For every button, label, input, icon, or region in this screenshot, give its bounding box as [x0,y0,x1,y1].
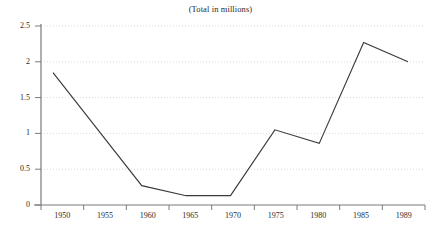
x-axis-ticks-group [41,205,425,210]
data-series-line [53,42,408,195]
y-axis-tick-label: 2 [4,57,30,66]
x-axis-tick-label: 1985 [341,211,381,220]
y-axis-tick-label: 2.5 [4,21,30,30]
x-axis-tick-label: 1965 [170,211,210,220]
y-axis-ticks-group [35,26,41,205]
chart-plot-area [0,0,441,234]
x-axis-tick-label: 1955 [85,211,125,220]
x-axis-tick-label: 1960 [128,211,168,220]
x-axis-tick-label: 1950 [42,211,82,220]
x-axis-tick-label: 1975 [256,211,296,220]
x-axis-tick-label: 1970 [213,211,253,220]
gridlines-group [41,26,425,169]
y-axis-tick-label: 0.5 [4,164,30,173]
y-axis-tick-label: 1.5 [4,93,30,102]
y-axis-tick-label: 0 [4,200,30,209]
y-axis-tick-label: 1 [4,128,30,137]
line-chart: (Total in millions) 00.511.522.5 1950195… [0,0,441,234]
x-axis-tick-label: 1989 [384,211,424,220]
x-axis-tick-label: 1980 [298,211,338,220]
